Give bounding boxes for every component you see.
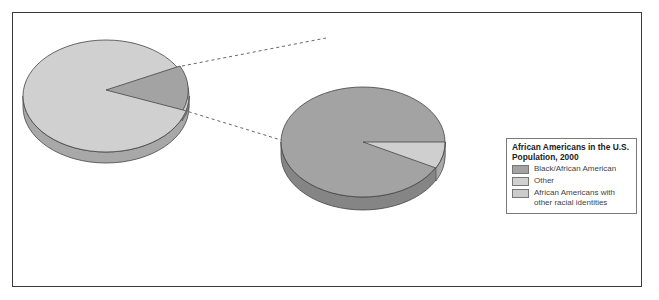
legend-item-black: Black/African American: [512, 164, 631, 174]
left-pie: [23, 40, 189, 163]
legend-swatch-multiracial: [512, 189, 529, 198]
connector-top: [182, 38, 326, 66]
right-pie: [281, 87, 445, 210]
legend-swatch-black: [512, 165, 529, 174]
legend-swatch-other: [512, 177, 529, 186]
legend-item-multiracial: African Americans with other racial iden…: [512, 188, 631, 207]
legend-title: African Americans in the U.S. Population…: [512, 142, 631, 162]
legend-label: African Americans with other racial iden…: [534, 188, 631, 207]
legend-label: Other: [534, 176, 554, 186]
legend-label: Black/African American: [534, 164, 616, 174]
chart-legend: African Americans in the U.S. Population…: [506, 138, 637, 214]
legend-item-other: Other: [512, 176, 631, 186]
